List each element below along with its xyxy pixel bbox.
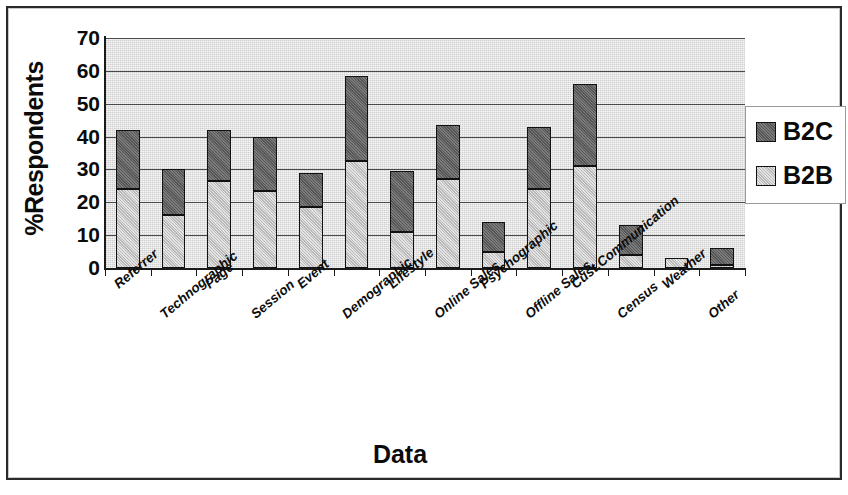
y-tick-label: 0 xyxy=(62,256,100,280)
bar-referrer xyxy=(116,130,140,268)
bar-lifestyle xyxy=(390,171,414,268)
x-tick-mark xyxy=(151,268,152,276)
x-tick-mark xyxy=(105,268,106,276)
y-tick-label: 50 xyxy=(62,92,100,116)
bar-other xyxy=(710,248,734,268)
bar-weather xyxy=(665,258,689,268)
bar-segment-b2b xyxy=(390,232,414,268)
bar-segment-b2c xyxy=(527,127,551,189)
b2b-swatch-icon xyxy=(756,166,776,186)
x-tick-mark xyxy=(242,268,243,276)
y-tick-label: 60 xyxy=(62,59,100,83)
bar-demographic xyxy=(345,76,369,268)
gridline xyxy=(105,104,745,105)
bar-segment-b2c xyxy=(207,130,231,181)
y-tick-label: 30 xyxy=(62,157,100,181)
x-tick-mark xyxy=(654,268,655,276)
x-tick-mark xyxy=(379,268,380,276)
x-tick-mark xyxy=(196,268,197,276)
bar-segment-b2c xyxy=(345,76,369,161)
x-label-session: Session xyxy=(248,277,297,322)
bar-technographic xyxy=(162,169,186,268)
bar-segment-b2b xyxy=(482,252,506,268)
bar-segment-b2b xyxy=(665,258,689,268)
bar-segment-b2c xyxy=(482,222,506,252)
bar-segment-b2b xyxy=(345,161,369,268)
bar-segment-b2b xyxy=(619,255,643,268)
x-tick-mark xyxy=(288,268,289,276)
y-axis-title: %Respondents xyxy=(20,19,49,279)
x-axis-title: Data xyxy=(0,440,800,469)
y-axis-tick-labels: 010203040506070 xyxy=(58,0,100,300)
x-tick-mark xyxy=(425,268,426,276)
bar-online-sales xyxy=(436,125,460,268)
gridline xyxy=(105,235,745,236)
chart-legend: B2C B2B xyxy=(745,106,846,204)
gridline xyxy=(105,137,745,138)
legend-label-b2c: B2C xyxy=(783,119,833,144)
gridline xyxy=(105,169,745,170)
bar-segment-b2c xyxy=(299,173,323,208)
y-tick-label: 40 xyxy=(62,125,100,149)
legend-item-b2c: B2C xyxy=(756,119,833,144)
x-tick-mark xyxy=(471,268,472,276)
y-tick-label: 10 xyxy=(62,223,100,247)
bar-segment-b2b xyxy=(299,207,323,268)
gridline xyxy=(105,202,745,203)
chart-page: %Respondents 010203040506070 ReferrerTec… xyxy=(0,0,848,495)
bar-segment-b2c xyxy=(253,137,277,191)
bar-page xyxy=(207,130,231,268)
bar-segment-b2c xyxy=(436,125,460,179)
x-label-census: Census xyxy=(614,279,661,322)
bar-segment-b2b xyxy=(116,189,140,268)
x-tick-mark xyxy=(562,268,563,276)
x-label-other: Other xyxy=(705,287,742,322)
bar-offline-sales xyxy=(527,127,551,268)
bar-segment-b2c xyxy=(116,130,140,189)
bar-segment-b2b xyxy=(253,191,277,268)
y-tick-label: 70 xyxy=(62,26,100,50)
bar-census xyxy=(619,225,643,268)
x-tick-mark xyxy=(334,268,335,276)
x-tick-mark xyxy=(745,268,746,276)
gridline xyxy=(105,71,745,72)
bar-event xyxy=(299,173,323,268)
legend-item-b2b: B2B xyxy=(756,163,833,188)
gridline xyxy=(105,38,745,39)
bar-segment-b2b xyxy=(162,215,186,268)
bar-segment-b2b xyxy=(436,179,460,268)
x-tick-mark xyxy=(608,268,609,276)
bar-session xyxy=(253,137,277,268)
bar-segment-b2b xyxy=(207,181,231,268)
y-axis-line xyxy=(104,36,106,270)
bar-segment-b2c xyxy=(619,225,643,255)
legend-label-b2b: B2B xyxy=(783,163,833,188)
bar-segment-b2c xyxy=(390,171,414,232)
bar-psychographic xyxy=(482,222,506,268)
bar-segment-b2c xyxy=(573,84,597,166)
bar-segment-b2c xyxy=(710,248,734,264)
plot-area xyxy=(105,38,745,268)
bar-segment-b2c xyxy=(162,169,186,215)
bar-segment-b2b xyxy=(527,189,551,268)
bar-segment-b2b xyxy=(573,166,597,268)
x-tick-mark xyxy=(516,268,517,276)
x-tick-mark xyxy=(699,268,700,276)
y-tick-label: 20 xyxy=(62,190,100,214)
b2c-swatch-icon xyxy=(756,122,776,142)
bar-cust-communication xyxy=(573,84,597,268)
